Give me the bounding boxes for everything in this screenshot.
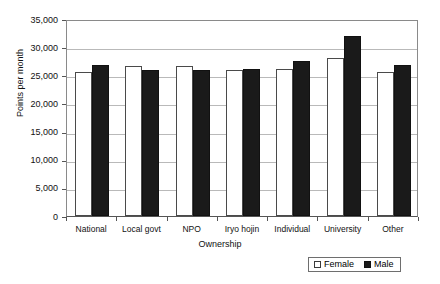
- x-tick-label: Individual: [267, 225, 317, 234]
- bar-chart: Points per month 05,00010,00015,00020,00…: [0, 0, 440, 284]
- y-tick-label: 25,000: [8, 72, 58, 81]
- y-tick-label: 35,000: [8, 16, 58, 25]
- x-tick-label: National: [66, 225, 116, 234]
- x-tick-label: Iryo hojin: [217, 225, 267, 234]
- bar-male-university: [344, 36, 361, 216]
- x-tick-mark: [217, 217, 218, 221]
- x-tick-mark: [167, 217, 168, 221]
- bar-male-national: [92, 65, 109, 216]
- bar-female-local-govt: [125, 66, 142, 216]
- x-tick-mark: [267, 217, 268, 221]
- legend-label-male: Male: [374, 260, 394, 269]
- x-tick-label: Other: [368, 225, 418, 234]
- y-tick-label: 10,000: [8, 156, 58, 165]
- y-tick-label: 30,000: [8, 44, 58, 53]
- x-tick-mark: [317, 217, 318, 221]
- x-tick-mark: [116, 217, 117, 221]
- bar-female-individual: [276, 69, 293, 216]
- chart-legend: Female Male: [308, 257, 401, 272]
- x-tick-mark: [418, 217, 419, 221]
- bar-female-national: [75, 72, 92, 216]
- y-tick-label: 15,000: [8, 128, 58, 137]
- legend-item-female: Female: [314, 260, 354, 269]
- bar-male-iryo-hojin: [243, 69, 260, 216]
- bar-male-individual: [293, 61, 310, 216]
- x-tick-label: NPO: [167, 225, 217, 234]
- x-tick-label: University: [317, 225, 367, 234]
- bar-series-container: [67, 21, 417, 216]
- legend-item-male: Male: [364, 260, 394, 269]
- legend-swatch-female-icon: [314, 261, 321, 268]
- bar-male-local-govt: [142, 70, 159, 216]
- bar-male-npo: [193, 70, 210, 216]
- bar-female-iryo-hojin: [226, 70, 243, 216]
- legend-swatch-male-icon: [364, 261, 371, 268]
- plot-area: [66, 20, 418, 217]
- y-tick-label: 20,000: [8, 100, 58, 109]
- bar-female-university: [327, 58, 344, 216]
- x-tick-mark: [368, 217, 369, 221]
- x-tick-label: Local govt: [116, 225, 166, 234]
- x-tick-mark: [66, 217, 67, 221]
- y-tick-label: 5,000: [8, 184, 58, 193]
- bar-female-npo: [176, 66, 193, 216]
- bar-male-other: [394, 65, 411, 216]
- y-tick-label: 0: [8, 213, 58, 222]
- x-axis-title: Ownership: [0, 239, 440, 249]
- bar-female-other: [377, 72, 394, 216]
- legend-label-female: Female: [324, 260, 354, 269]
